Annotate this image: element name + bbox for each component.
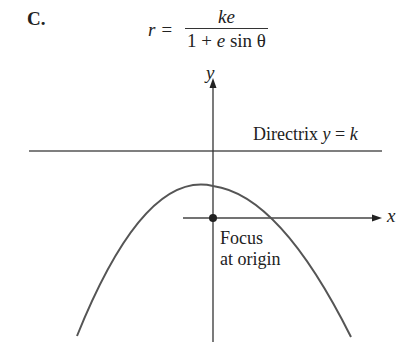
parabola-curve	[77, 185, 351, 337]
directrix-text: Directrix	[253, 124, 322, 144]
focus-label-line1: Focus	[220, 228, 281, 249]
focus-label: Focus at origin	[220, 228, 281, 270]
directrix-k: k	[350, 124, 358, 144]
directrix-label: Directrix y = k	[253, 124, 358, 145]
y-axis-label: y	[206, 62, 214, 84]
focus-label-line2: at origin	[220, 249, 281, 270]
x-axis-label: x	[387, 205, 395, 227]
parabola-diagram	[0, 0, 412, 357]
x-axis-arrow-icon	[372, 215, 382, 222]
directrix-equals: =	[330, 124, 349, 144]
focus-point	[209, 214, 217, 222]
